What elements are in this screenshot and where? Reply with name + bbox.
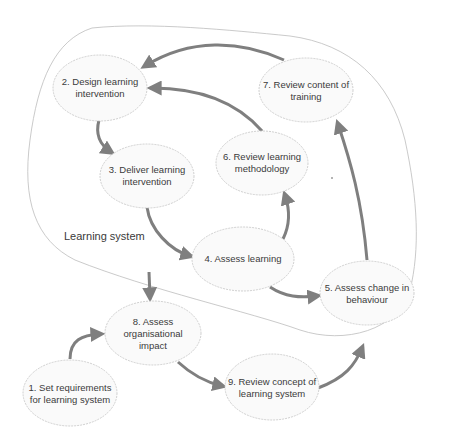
svg-text:intervention: intervention <box>75 88 124 99</box>
arrow-8-to-9 <box>178 362 222 386</box>
svg-text:2. Design learning: 2. Design learning <box>62 76 139 87</box>
node-4-assess-learning: 4. Assess learning <box>192 227 294 291</box>
svg-text:5. Assess change in: 5. Assess change in <box>325 282 410 293</box>
svg-text:9. Review concept of: 9. Review concept of <box>228 376 317 387</box>
node-9-review-concept-of-learning-system: 9. Review concept of learning system <box>225 354 319 420</box>
node-1-set-requirements: 1. Set requirements for learning system <box>23 360 117 426</box>
svg-text:training: training <box>290 91 321 102</box>
svg-text:4. Assess learning: 4. Assess learning <box>204 253 281 264</box>
svg-text:for learning system: for learning system <box>30 394 110 405</box>
learning-system-diagram: Learning system 2. Design learning inter… <box>0 0 460 447</box>
node-7-review-content-of-training: 7. Review content of training <box>259 58 353 122</box>
svg-text:3. Deliver learning: 3. Deliver learning <box>109 164 186 175</box>
svg-text:intervention: intervention <box>122 176 171 187</box>
svg-text:organisational: organisational <box>123 328 182 339</box>
svg-text:learning system: learning system <box>239 388 306 399</box>
node-3-deliver-learning-intervention: 3. Deliver learning intervention <box>100 144 194 208</box>
arrow-1-to-8 <box>70 334 100 359</box>
arrow-4-to-6 <box>283 195 289 239</box>
svg-text:behaviour: behaviour <box>346 294 388 305</box>
arrow-5-to-7 <box>338 124 367 260</box>
arrow-system-to-8 <box>149 272 150 297</box>
svg-text:methodology: methodology <box>235 163 290 174</box>
arrow-6-to-2 <box>152 88 262 131</box>
stray-dot <box>331 177 333 179</box>
arrow-4-to-5 <box>270 287 317 297</box>
arrow-7-to-2 <box>145 45 284 66</box>
svg-text:1. Set requirements: 1. Set requirements <box>29 382 112 393</box>
arrow-2-to-3 <box>98 120 111 152</box>
svg-text:8. Assess: 8. Assess <box>133 316 174 327</box>
svg-text:7. Review content of: 7. Review content of <box>263 79 349 90</box>
arrow-9-to-system <box>318 348 362 388</box>
learning-system-label: Learning system <box>64 230 145 242</box>
svg-text:6. Review learning: 6. Review learning <box>223 151 301 162</box>
svg-text:impact: impact <box>139 340 167 351</box>
node-5-assess-change-in-behaviour: 5. Assess change in behaviour <box>320 261 414 325</box>
node-6-review-learning-methodology: 6. Review learning methodology <box>216 131 308 195</box>
node-8-assess-organisational-impact: 8. Assess organisational impact <box>105 301 201 365</box>
arrow-3-to-4 <box>147 207 190 256</box>
node-2-design-learning-intervention: 2. Design learning intervention <box>53 55 147 121</box>
